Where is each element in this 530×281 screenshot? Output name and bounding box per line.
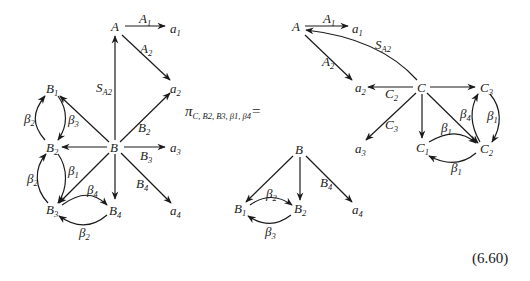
edge-label-A1-right: A1 [322, 11, 335, 28]
edge-label-SA2: SA2 [96, 80, 113, 97]
edge-label-B2: B2 [138, 120, 151, 137]
node-B3: B3 [46, 202, 58, 219]
edge-label-beta4-right: β4 [459, 106, 471, 123]
edge-B1-B2 [58, 96, 66, 140]
node-B: B [110, 140, 118, 155]
edge-label-A2: A2 [139, 41, 153, 58]
edge-label-C2: C2 [385, 86, 399, 103]
edge-B2-B3 [58, 154, 66, 203]
node-a3-right: a3 [355, 141, 366, 158]
node-a4-right: a4 [352, 202, 364, 219]
node-a1-right: a1 [352, 21, 363, 38]
node-C3: C3 [480, 80, 493, 97]
diagram-canvas: A a1 a2 a3 a4 B B1 B2 B3 B4 A1 A2 SA2 B2… [0, 0, 530, 281]
node-a1: a1 [170, 21, 181, 38]
edge-label-A1: A1 [138, 11, 151, 28]
edge-label-beta4: β4 [86, 182, 98, 199]
edge-label-A2-right: A2 [321, 54, 335, 71]
node-B4: B4 [109, 203, 122, 220]
node-B2: B2 [46, 140, 59, 157]
edge-label-beta3: β3 [67, 112, 79, 129]
edge-label-B4-right: B4 [320, 175, 333, 192]
edge-label-beta1-C3C2: β1 [486, 108, 498, 125]
node-C1: C1 [416, 140, 429, 157]
edge-label-B3: B3 [140, 148, 152, 165]
node-B1-right: B1 [234, 201, 246, 218]
left-diagram: A a1 a2 a3 a4 B B1 B2 B3 B4 A1 A2 SA2 B2… [23, 11, 182, 242]
edge-label-beta2-right: β2 [265, 186, 277, 203]
node-B1: B1 [46, 81, 58, 98]
edge-label-beta1: β1 [67, 163, 79, 180]
edge-label-beta1-C2C1: β1 [450, 160, 462, 177]
edge-label-beta2-bottom: β2 [78, 225, 90, 242]
edge-label-SA2-right: SA2 [375, 37, 392, 54]
edge-B2-B1-right [248, 215, 291, 223]
edge-C2-C3 [472, 94, 480, 142]
node-C2: C2 [480, 141, 494, 158]
node-a4: a4 [170, 203, 182, 220]
node-B2-right: B2 [294, 201, 307, 218]
node-A-right: A [291, 19, 300, 34]
node-a2-right: a2 [355, 80, 367, 97]
node-A: A [110, 19, 119, 34]
edge-B4-B3 [59, 215, 107, 225]
edge-B-a4-right [306, 156, 352, 202]
edge-label-beta3-right: β3 [264, 224, 276, 241]
edge-B3-B4 [62, 195, 107, 205]
node-B-right: B [295, 142, 303, 157]
edge-B2-B1 [35, 96, 45, 140]
projection-operator: πC, B2, B3, β1, β4= [185, 103, 261, 121]
equation-number: (6.60) [472, 250, 508, 267]
edge-B3-B2 [37, 154, 48, 203]
node-a2: a2 [170, 81, 182, 98]
right-diagram: A a1 a2 a3 a4 C C1 C2 C3 B B1 B2 A1 A2 S… [234, 11, 499, 241]
edge-label-beta2-mid: β2 [26, 171, 38, 188]
node-a3: a3 [170, 140, 181, 157]
edge-label-C3: C3 [385, 117, 398, 134]
edge-C1-C2 [429, 134, 476, 143]
edge-label-beta2-top: β2 [23, 111, 35, 128]
node-C: C [417, 80, 426, 95]
edge-label-beta1-C1C2: β1 [440, 120, 452, 137]
